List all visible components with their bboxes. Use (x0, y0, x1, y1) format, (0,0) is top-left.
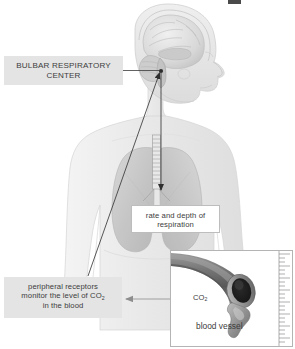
measurement-ruler (279, 251, 290, 346)
blood-vessel-inset-panel: CO2 blood vessel (170, 250, 293, 347)
blood-vessel-illustration (171, 251, 292, 346)
label-rate-line1: rate and depth of (146, 211, 205, 220)
label-periph-line2-text: monitor the level of CO (21, 291, 101, 300)
label-peripheral-receptors: peripheral receptors monitor the level o… (4, 277, 122, 318)
label-rate-and-depth: rate and depth of respiration (131, 205, 220, 233)
inset-co2-text: CO (193, 293, 204, 302)
diagram-canvas: BULBAR RESPIRATORY CENTER rate and depth… (0, 0, 295, 349)
label-periph-line3: in the blood (4, 301, 122, 310)
arrow-receptors-to-brainstem (88, 73, 160, 276)
label-bulbar-line2: CENTER (46, 71, 80, 80)
label-periph-line1: peripheral receptors (4, 282, 122, 291)
inset-blood-vessel-label: blood vessel (196, 321, 243, 331)
label-bulbar-line1: BULBAR RESPIRATORY (16, 61, 111, 70)
inset-co2-label: CO2 (193, 293, 207, 302)
label-rate-line2: respiration (157, 220, 194, 229)
brainstem-target-point (159, 69, 163, 73)
co2-subscript: 2 (102, 295, 105, 301)
inset-co2-subscript: 2 (204, 296, 207, 302)
label-periph-line2: monitor the level of CO2 (4, 291, 122, 300)
label-bulbar-respiratory-center: BULBAR RESPIRATORY CENTER (4, 56, 123, 85)
